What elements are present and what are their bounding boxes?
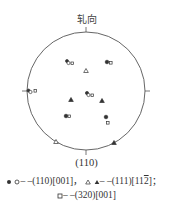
pole-figure-plane-label: (110): [0, 157, 173, 168]
legend-111-112: – –(111)[112]；: [100, 176, 162, 186]
legend-line-2: – –(320)[001]: [0, 190, 173, 200]
pole-figure: [0, 0, 173, 160]
legend-line-1: – –(110)[001]， – –(111)[112]；: [6, 173, 162, 187]
open-triangle-icon: [85, 179, 91, 185]
marker-group: [27, 60, 116, 145]
legend-110-001: – –(110)[001]，: [20, 176, 83, 186]
stereographic-circle: [27, 32, 145, 150]
filled-circle-icon: [6, 179, 12, 185]
legend-320-001: – –(320)[001]: [63, 190, 116, 200]
